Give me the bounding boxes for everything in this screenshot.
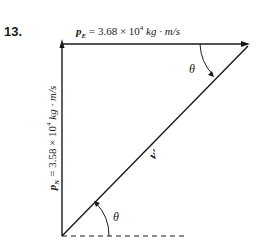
east-arrowhead-icon <box>241 41 250 47</box>
resultant-vector <box>62 46 248 236</box>
top-angle-arrowhead-icon <box>208 71 214 77</box>
bottom-angle-label: θ <box>113 210 119 225</box>
vector-triangle-diagram <box>0 0 258 245</box>
top-angle-arc <box>200 44 213 75</box>
bottom-angle-arc <box>96 203 109 236</box>
top-angle-label: θ <box>189 62 195 77</box>
